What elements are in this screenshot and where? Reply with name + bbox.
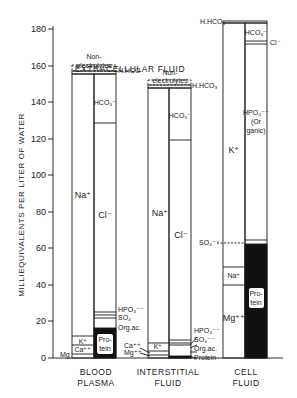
blood-plasma-labels: Non- electrolytes H.HCO HCO₃⁻ Na⁺ Cl⁻ HP…	[60, 53, 144, 388]
y-tick-labels: 180 160 140 120 100 80 60 40 20 0	[31, 24, 46, 363]
plasma-nonelectrolytes-2: electrolytes	[76, 62, 112, 70]
interstitial-na: Na⁺	[152, 208, 169, 218]
tick-60: 60	[36, 243, 46, 253]
interstitial-hco3: HCO₃⁻	[169, 112, 191, 119]
plasma-nonelectrolytes-1: Non-	[86, 53, 102, 60]
interstitial-ca: Ca⁺⁺	[124, 342, 141, 349]
tick-140: 140	[31, 97, 46, 107]
cell-k: K⁺	[228, 145, 239, 155]
cell-so4: SO₄⁻⁻	[199, 239, 220, 246]
cell-protein-1: Pro-	[249, 290, 263, 297]
interstitial-hpo4: HPO₄⁻⁻	[194, 327, 220, 334]
cell-hco3: HCO₃⁻	[245, 29, 267, 36]
electrolyte-chart: 180 160 140 120 100 80 60 40 20 0 MILLIE…	[0, 0, 297, 398]
cell-cl: Cl⁻	[270, 39, 281, 46]
tick-40: 40	[36, 280, 46, 290]
plasma-k: K⁺	[79, 338, 88, 345]
plasma-so4: SO₄	[118, 314, 131, 321]
category-plasma: PLASMA	[77, 378, 115, 388]
tick-180: 180	[31, 24, 46, 34]
category-cell: CELL	[234, 367, 257, 377]
cell-hpo4: HPO₄⁻⁻	[243, 109, 269, 116]
plasma-cl: Cl⁻	[98, 210, 112, 220]
category-blood: BLOOD	[80, 367, 112, 377]
interstitial-cl: Cl⁻	[174, 230, 188, 240]
interstitial-protein: Protein	[194, 354, 216, 361]
tick-120: 120	[31, 134, 46, 144]
plasma-protein-2: tein	[99, 345, 110, 352]
plasma-ca: Ca⁺⁺	[75, 346, 92, 353]
interstitial-so4: SO₄⁻⁻	[194, 336, 215, 343]
plasma-protein-1: Pro-	[98, 336, 112, 343]
cell-protein-2: tein	[250, 299, 261, 306]
plasma-na: Na⁺	[75, 190, 92, 200]
plasma-hco3: HCO₃⁻	[94, 99, 116, 106]
plasma-orgac: Org.ac.	[118, 324, 141, 332]
cell-hhco3: H.HCO₃	[200, 18, 226, 25]
plasma-mg: Mg	[60, 351, 70, 359]
interstitial-mg: Mg⁺⁺	[124, 349, 142, 357]
tick-160: 160	[31, 61, 46, 71]
cell-organic-1: (Or	[251, 118, 262, 126]
plasma-hhco: H.HCO	[118, 67, 141, 74]
tick-20: 20	[36, 316, 46, 326]
cell-organic-2: ganic)	[246, 127, 265, 135]
interstitial-hhco3: H.HCO₃	[192, 82, 218, 89]
plasma-hpo4: HPO₄⁻⁻	[118, 306, 144, 313]
cell-mg: Mg⁺⁺	[223, 313, 246, 323]
interstitial-k: K⁺	[154, 343, 163, 350]
tick-80: 80	[36, 207, 46, 217]
interstitial-orgac: Org.ac.	[194, 345, 217, 353]
tick-0: 0	[41, 353, 46, 363]
cell-fluid-column	[217, 21, 267, 358]
category-fluid-2: FLUID	[232, 378, 259, 388]
category-fluid-1: FLUID	[154, 378, 181, 388]
interstitial-nonelectrolytes-1: Non-	[162, 69, 178, 76]
y-axis-label: MILLIEQUIVALENTS PER LITER OF WATER	[17, 113, 26, 297]
cell-na: Na⁺	[228, 272, 241, 279]
interstitial-nonelectrolytes-2: electrolytes	[152, 77, 188, 85]
tick-100: 100	[31, 170, 46, 180]
category-interstitial: INTERSTITIAL	[137, 367, 200, 377]
interstitial-column	[140, 80, 197, 359]
